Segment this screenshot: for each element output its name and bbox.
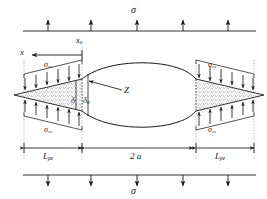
- sigma-cs-bottom-left-label: σcs: [44, 126, 52, 135]
- delta-zero-sub: o: [87, 99, 90, 105]
- sigma-cs-bottom-right-label: σcs: [208, 126, 216, 135]
- sigma-cs-bl-sub: cs: [48, 129, 52, 134]
- figure-canvas: σ σ x xo σcs σcs σcs σcs δ δo Z Lpz Lpz …: [0, 0, 267, 199]
- diagram-svg: [0, 0, 267, 199]
- sigma-cs-top-right-label: σcs: [208, 61, 216, 70]
- x-origin-label: xo: [76, 36, 82, 45]
- x-axis-label: x: [20, 48, 24, 57]
- half-crack-label: 2 a: [130, 152, 141, 161]
- crack-lower-flank: [82, 111, 196, 127]
- right-plastic-zone: [195, 78, 265, 112]
- sigma-cs-top-left-label: σcs: [44, 61, 52, 70]
- bottom-load-arrows: [48, 175, 228, 186]
- sigma-cs-tl-sub: cs: [48, 64, 52, 69]
- len-pz-right-sub: pz: [220, 155, 225, 161]
- len-pz-right-label: Lpz: [215, 152, 225, 162]
- leader-top-left: [24, 60, 82, 74]
- crack-upper-flank: [82, 63, 196, 79]
- sigma-cs-br-sub: cs: [212, 129, 216, 134]
- top-load-group: [23, 20, 256, 31]
- sigma-top-label: σ: [131, 5, 136, 15]
- crack-opening: [82, 63, 196, 127]
- len-pz-left-label: Lpz: [43, 152, 53, 162]
- delta-zero-label: δo: [83, 96, 90, 105]
- bottom-load-group: [23, 175, 256, 186]
- z-arrow: [89, 81, 122, 90]
- sigma-bottom-label: σ: [131, 186, 136, 196]
- delta-label: δ: [71, 96, 75, 105]
- x-axis-group: [32, 50, 82, 60]
- leader-bottom-left: [24, 116, 82, 130]
- leader-top-right: [196, 60, 254, 74]
- x-origin-sub: o: [80, 39, 83, 45]
- len-pz-left-sub: pz: [48, 155, 53, 161]
- leader-bottom-right: [196, 116, 254, 130]
- sigma-cs-tr-sub: cs: [212, 64, 216, 69]
- crack-tip-label: Z: [124, 86, 129, 95]
- z-callout: [89, 81, 122, 90]
- top-load-arrows: [48, 20, 228, 31]
